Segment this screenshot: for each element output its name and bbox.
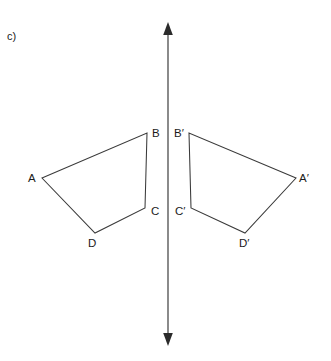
vertex-label-d-prime: D′ xyxy=(239,238,249,250)
arrow-head-down-icon xyxy=(163,333,173,346)
vertex-label-b: B xyxy=(152,128,160,140)
vertex-label-a-prime: A′ xyxy=(299,173,309,185)
quadrilateral-abcd xyxy=(42,133,147,233)
line-of-reflection xyxy=(163,22,173,346)
vertex-label-b-prime: B′ xyxy=(174,128,184,140)
arrow-head-up-icon xyxy=(163,22,173,35)
quadrilateral-a-prime-b-prime-c-prime-d-prime xyxy=(189,133,296,233)
vertex-label-a: A xyxy=(28,173,36,185)
vertex-label-c: C xyxy=(151,206,159,218)
reflection-figure: c) ABCDA′B′C′D′ xyxy=(0,0,331,361)
vertex-label-c-prime: C′ xyxy=(175,206,185,218)
geometry-canvas xyxy=(0,0,331,361)
vertex-label-d: D xyxy=(88,238,96,250)
